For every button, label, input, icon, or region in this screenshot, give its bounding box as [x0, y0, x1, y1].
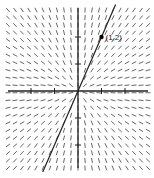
- slope-segment: [118, 129, 122, 132]
- slope-segment: [125, 85, 130, 86]
- slope-segment: [104, 77, 109, 79]
- slope-segment: [71, 135, 72, 140]
- slope-segment: [119, 151, 122, 155]
- slope-segment: [27, 144, 30, 148]
- slope-segment: [56, 8, 57, 13]
- slope-segment: [49, 143, 51, 148]
- slope-segment: [35, 143, 38, 147]
- slope-segment: [49, 128, 52, 132]
- slope-segment: [119, 158, 122, 162]
- slope-segment: [98, 45, 100, 50]
- slope-segment: [35, 158, 38, 162]
- slope-segment: [49, 23, 51, 28]
- slope-segment: [97, 68, 101, 72]
- slope-segment: [132, 100, 137, 101]
- slope-segment: [34, 136, 37, 140]
- slope-segment: [146, 129, 150, 131]
- slope-segment: [139, 151, 143, 155]
- slope-segment: [111, 77, 116, 79]
- slope-segment: [139, 31, 143, 34]
- slope-segment: [21, 166, 24, 170]
- slope-segment: [49, 8, 51, 13]
- slope-segment: [49, 158, 51, 163]
- slope-segment: [42, 23, 44, 28]
- slope-segment: [49, 166, 51, 171]
- slope-segment: [71, 158, 72, 163]
- slope-segment: [6, 122, 11, 124]
- slope-segment: [42, 30, 45, 34]
- slope-segment: [64, 158, 65, 163]
- slope-segment: [132, 144, 136, 148]
- slope-segment: [20, 46, 24, 49]
- slope-segment: [27, 77, 32, 78]
- slope-segment: [13, 62, 18, 64]
- slope-segment: [139, 85, 144, 86]
- slope-segment: [28, 15, 31, 19]
- slope-segment: [71, 45, 72, 50]
- slope-segment: [63, 113, 65, 117]
- slope-segment: [13, 166, 16, 170]
- slope-segment: [118, 100, 123, 101]
- slope-segment: [35, 8, 37, 12]
- slope-segment: [27, 114, 31, 116]
- slope-segment: [91, 113, 93, 117]
- slope-segment: [125, 114, 129, 116]
- slope-segment: [104, 114, 108, 117]
- slope-segment: [111, 100, 116, 101]
- slope-segment: [28, 8, 31, 12]
- slope-segment: [111, 61, 115, 64]
- slope-segment: [111, 46, 114, 50]
- slope-segment: [139, 77, 144, 78]
- slope-segment: [56, 121, 59, 125]
- slope-segment: [48, 107, 52, 110]
- slope-segment: [49, 46, 52, 50]
- slope-segment: [27, 31, 30, 35]
- slope-segment: [92, 8, 93, 13]
- slope-segment: [119, 143, 122, 147]
- slope-segment: [98, 128, 100, 132]
- slope-segment: [13, 46, 17, 49]
- slope-segment: [112, 143, 115, 147]
- slope-segment: [132, 46, 136, 49]
- slope-segment: [139, 54, 143, 57]
- slope-segment: [146, 144, 150, 147]
- slope-segment: [84, 98, 87, 102]
- slope-segment: [118, 107, 123, 109]
- slope-segment: [20, 144, 24, 148]
- slope-segment: [146, 23, 150, 27]
- slope-segment: [63, 60, 65, 65]
- slope-segment: [97, 99, 102, 101]
- slope-segment: [85, 120, 86, 125]
- slope-segment: [20, 136, 24, 139]
- slope-segment: [56, 61, 59, 65]
- slope-segment: [125, 31, 128, 35]
- slope-segment: [42, 15, 44, 19]
- slope-segment: [98, 8, 99, 13]
- slope-segment: [139, 159, 142, 163]
- slope-segment: [132, 151, 135, 155]
- slope-segment: [91, 45, 93, 50]
- slope-segment: [6, 100, 11, 101]
- slope-segment: [42, 151, 44, 155]
- slope-segment: [6, 16, 9, 20]
- slope-segment: [105, 158, 107, 163]
- slope-segment: [118, 69, 122, 71]
- slope-segment: [62, 84, 67, 86]
- slope-segment: [125, 122, 129, 125]
- slope-segment: [6, 137, 10, 140]
- slope-segment: [111, 69, 115, 72]
- slope-segment: [69, 84, 73, 87]
- slope-segment: [70, 60, 71, 65]
- slope-segment: [98, 166, 99, 171]
- slope-segment: [118, 85, 123, 86]
- slope-segment: [132, 38, 136, 41]
- slope-segment: [118, 114, 122, 117]
- slope-segment: [20, 100, 25, 101]
- slope-segment: [48, 121, 51, 125]
- slope-segment: [6, 8, 9, 12]
- slope-segment: [56, 166, 57, 171]
- slope-segment: [92, 166, 93, 171]
- slope-segment: [41, 85, 46, 86]
- slope-segment: [20, 31, 23, 35]
- slope-segment: [35, 151, 38, 155]
